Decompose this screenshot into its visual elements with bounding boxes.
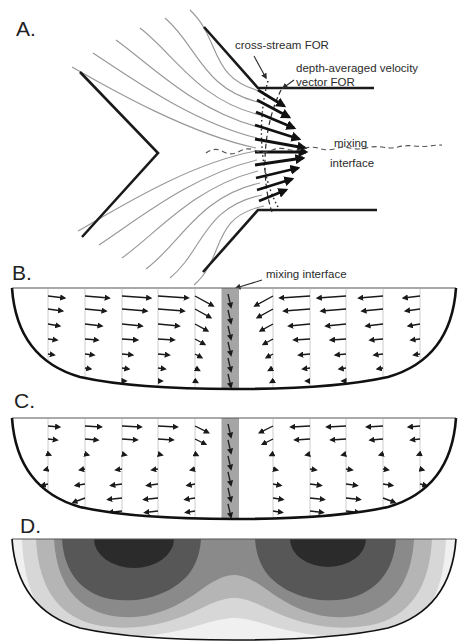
velocity-arrow — [48, 426, 59, 427]
velocity-arrow — [195, 324, 208, 331]
velocity-arrow — [122, 439, 137, 440]
velocity-arrow — [310, 498, 324, 500]
velocity-arrow — [195, 296, 213, 306]
velocity-arrow — [195, 354, 202, 358]
velocity-arrow — [76, 484, 85, 486]
velocity-arrow — [346, 498, 360, 500]
velocity-vector-fan — [255, 90, 306, 201]
velocity-arrow — [152, 469, 158, 470]
velocity-arrow — [85, 426, 101, 427]
velocity-arrow — [370, 439, 383, 440]
velocity-arrow — [273, 469, 277, 470]
velocity-arrow — [321, 309, 346, 311]
velocity-arrow — [260, 426, 273, 433]
velocity-arrow — [48, 439, 57, 440]
velocity-arrow — [420, 484, 427, 486]
velocity-arrow — [187, 484, 195, 486]
velocity-arrow — [280, 296, 310, 298]
velocity-arrow — [48, 339, 57, 340]
mixing-label-line1: mixing — [334, 137, 367, 149]
panel-d-channel — [12, 510, 456, 640]
velocity-arrow — [411, 339, 420, 340]
velocity-arrow — [295, 439, 310, 440]
velocity-arrow — [44, 469, 48, 470]
velocity-arrow — [327, 426, 346, 427]
velocity-arrow — [260, 324, 273, 331]
velocity-arrow — [310, 511, 323, 513]
velocity-arrow — [256, 168, 298, 178]
velocity-arrow — [291, 426, 310, 427]
velocity-arrow — [85, 454, 88, 455]
velocity-arrow — [273, 511, 282, 513]
velocity-arrow — [257, 179, 292, 190]
velocity-arrow — [158, 324, 179, 326]
velocity-arrow — [303, 368, 310, 369]
velocity-arrow — [85, 296, 109, 298]
velocity-arrow — [158, 309, 184, 311]
velocity-arrow — [339, 368, 346, 369]
streamlines-lower — [78, 151, 264, 285]
velocity-arrow — [85, 309, 106, 311]
streamline — [93, 53, 257, 138]
velocity-arrow — [186, 511, 195, 513]
velocity-arrow — [273, 498, 283, 500]
velocity-arrow — [383, 484, 392, 486]
velocity-arrow — [185, 498, 195, 500]
velocity-arrow — [48, 296, 65, 298]
panel-d-letter: D. — [20, 514, 41, 537]
velocity-arrow — [310, 484, 321, 486]
velocity-arrow — [294, 339, 310, 340]
confluence-figure: A. — [0, 0, 468, 643]
velocity-arrow — [195, 426, 208, 433]
velocity-arrow — [409, 426, 420, 427]
velocity-arrow — [299, 354, 310, 355]
velocity-arrow — [257, 309, 273, 318]
cross-stream-label: cross-stream FOR — [235, 39, 329, 51]
velocity-arrow — [318, 296, 347, 298]
velocity-arrow — [85, 339, 98, 340]
velocity-arrow — [284, 309, 310, 311]
velocity-arrow — [85, 354, 94, 355]
velocity-arrow — [122, 324, 142, 326]
velocity-arrow — [331, 439, 346, 440]
figure-canvas: A. — [0, 0, 468, 643]
streamline — [194, 206, 264, 285]
panel-c-letter: C. — [14, 389, 35, 412]
velocity-arrow — [85, 324, 102, 326]
lower-bank — [203, 210, 377, 272]
velocity-arrow — [158, 339, 174, 340]
velocity-arrow — [263, 439, 274, 444]
velocity-arrow — [191, 469, 195, 470]
panel-b-mixing-interface-label: mixing interface — [266, 268, 347, 280]
velocity-arrow — [48, 454, 50, 455]
velocity-arrow — [158, 439, 173, 440]
velocity-arrow — [266, 354, 273, 358]
velocity-arrow — [122, 426, 141, 427]
panel-a: A. — [16, 10, 442, 285]
panel-c-channel — [12, 417, 456, 521]
velocity-arrow — [269, 368, 273, 370]
velocity-arrow — [158, 296, 188, 298]
velocity-arrow — [195, 309, 211, 318]
panel-b-letter: B. — [12, 261, 32, 284]
velocity-arrow — [411, 439, 420, 440]
velocity-arrow — [48, 309, 62, 311]
velocity-arrow — [158, 368, 165, 369]
velocity-arrow — [420, 469, 424, 470]
depth-avg-label-line2: vector FOR — [296, 76, 355, 88]
velocity-arrow — [158, 454, 162, 455]
velocity-arrow — [366, 324, 383, 326]
velocity-arrow — [408, 324, 420, 326]
streamlines-upper — [72, 10, 264, 148]
streamline — [165, 18, 262, 103]
velocity-arrow — [406, 309, 420, 311]
velocity-arrow — [336, 354, 346, 355]
velocity-arrow — [108, 498, 122, 500]
depth-avg-label-line1: depth-averaged velocity — [296, 62, 418, 74]
velocity-arrow — [342, 454, 346, 455]
velocity-arrow — [122, 368, 129, 369]
velocity-arrow — [116, 469, 122, 470]
panel-a-letter: A. — [16, 17, 36, 40]
velocity-arrow — [41, 484, 48, 486]
velocity-arrow — [144, 498, 158, 500]
